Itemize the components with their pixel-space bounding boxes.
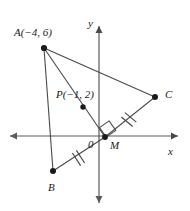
label-y-axis: y: [88, 18, 93, 29]
label-point-m: M: [110, 140, 119, 151]
label-point-p: P(−1, 2): [56, 89, 94, 100]
label-point-c: C: [165, 89, 172, 100]
point-b: [50, 168, 56, 174]
point-m: [102, 134, 108, 140]
x-axis-left-arrow: [10, 133, 17, 140]
label-point-b: B: [48, 182, 55, 193]
label-x-axis: x: [168, 146, 173, 157]
segment-ab: [44, 48, 53, 171]
point-p: [80, 104, 85, 109]
label-origin: 0: [88, 139, 94, 150]
y-axis-bottom-arrow: [96, 196, 103, 203]
point-c: [152, 94, 158, 100]
tick-marks-mc: [121, 113, 136, 127]
tick-marks-bm: [72, 150, 84, 165]
label-point-a: A(−4, 6): [14, 27, 52, 38]
point-a: [41, 45, 47, 51]
geometry-figure: A(−4, 6) P(−1, 2) B C M 0 x y: [0, 0, 190, 211]
